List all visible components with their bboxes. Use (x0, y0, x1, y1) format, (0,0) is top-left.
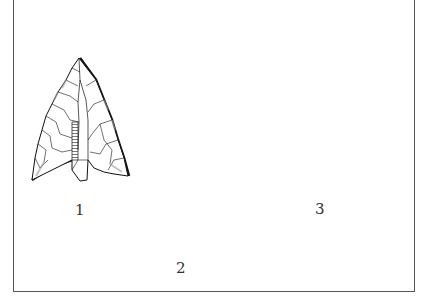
figure-label-3: 3 (315, 202, 325, 217)
figure-label-1: 1 (75, 203, 85, 218)
figure-label-2: 2 (176, 261, 186, 276)
arrowhead-figure (32, 58, 129, 181)
tools-drawing (0, 0, 427, 301)
illustration-plate: 1 2 3 (0, 0, 427, 301)
